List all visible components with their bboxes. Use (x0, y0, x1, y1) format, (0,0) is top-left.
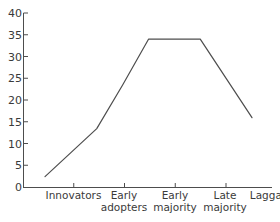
x-axis-tick-labels: Innovators Early adopters Early majority… (23, 189, 273, 222)
x-tick-label-line1: Laggards (250, 189, 280, 201)
x-tick-label-line2: majority (175, 201, 275, 213)
x-tick-label-laggards: Laggards (224, 189, 280, 201)
adoption-curve-line (45, 39, 252, 176)
adoption-curve-chart: 40 35 30 25 20 15 10 5 0 Innovators Earl… (0, 0, 280, 222)
